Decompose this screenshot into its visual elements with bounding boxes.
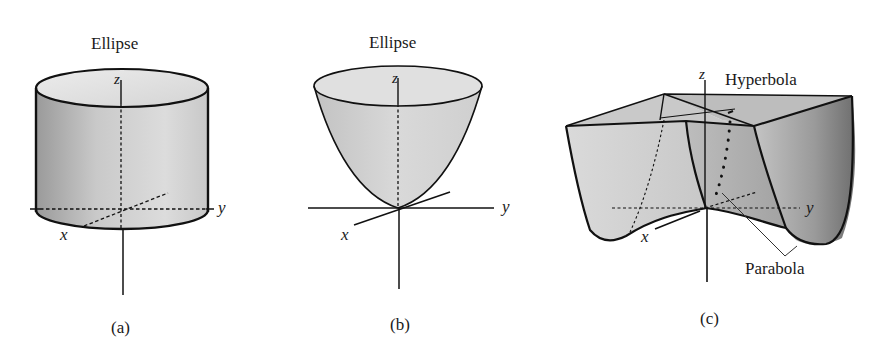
figure-c-hyperbola-label: Hyperbola [725,70,797,90]
figure-c-caption: (c) [700,309,719,329]
figure-b-paraboloid [308,66,494,289]
figure-a-x-axis-label: x [60,225,68,245]
figure-a-trace-label: Ellipse [91,34,138,54]
figure-c-parabola-label: Parabola [745,259,804,279]
figure-b-trace-label: Ellipse [369,33,416,53]
figure-b-x-axis-label: x [341,225,349,245]
figure-a-cylinder [30,69,214,295]
figure-a-caption: (a) [111,318,130,338]
figure-c-y-axis-label: y [806,198,814,218]
quadric-surfaces-figure: Ellipse z y x (a) Ellipse z y x (b) z Hy… [0,0,871,357]
figure-c-x-axis-label: x [641,227,649,247]
figure-b-y-axis-label: y [502,197,510,217]
figure-c-hyperbolic-paraboloid [566,80,855,282]
figure-a-z-axis-label: z [114,71,120,88]
figure-a-y-axis-label: y [218,198,226,218]
figure-c-z-axis-label: z [699,66,705,83]
figure-b-z-axis-label: z [392,70,398,87]
figure-b-caption: (b) [390,315,410,335]
